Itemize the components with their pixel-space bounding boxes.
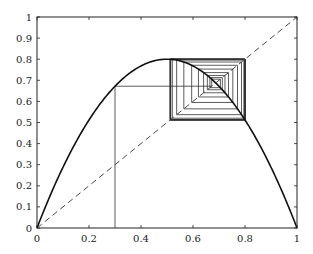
- y-tick-label: 0.9: [16, 33, 32, 44]
- diagonal-line: [37, 17, 297, 228]
- y-tick-label: 0.3: [16, 159, 32, 170]
- cobweb-path: [115, 59, 245, 228]
- cobweb-chart: 00.20.40.60.81 00.10.20.30.40.50.60.70.8…: [0, 0, 313, 254]
- y-tick-label: 0.8: [16, 54, 32, 65]
- y-tick-label: 0.7: [16, 75, 32, 86]
- y-tick-label: 0.2: [16, 180, 32, 191]
- y-axis: 00.10.20.30.40.50.60.70.80.91: [16, 12, 297, 234]
- y-tick-label: 0.4: [16, 138, 32, 149]
- x-tick-label: 0.4: [133, 233, 149, 244]
- x-tick-label: 0: [34, 233, 40, 244]
- y-tick-label: 1: [26, 12, 32, 23]
- x-tick-label: 0.2: [81, 233, 97, 244]
- logistic-curve: [37, 59, 297, 228]
- x-tick-label: 0.6: [185, 233, 201, 244]
- cobweb-line: [115, 59, 245, 228]
- x-tick-label: 1: [294, 233, 300, 244]
- y-tick-label: 0.6: [16, 96, 32, 107]
- y-tick-label: 0.5: [16, 117, 32, 128]
- x-tick-label: 0.8: [237, 233, 253, 244]
- x-axis: 00.20.40.60.81: [34, 17, 300, 244]
- y-tick-label: 0.1: [16, 201, 32, 212]
- y-tick-label: 0: [26, 223, 32, 234]
